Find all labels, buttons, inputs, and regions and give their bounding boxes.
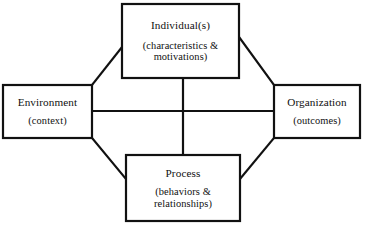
- connector-process-organization: [240, 138, 274, 179]
- node-box-individual[interactable]: [122, 4, 239, 78]
- diagram-canvas: Individual(s) (characteristics & motivat…: [0, 0, 365, 226]
- node-box-process[interactable]: [126, 155, 240, 221]
- node-box-organization[interactable]: [274, 85, 360, 138]
- node-box-environment[interactable]: [3, 85, 92, 138]
- connector-individual-organization: [239, 37, 274, 85]
- diagram-svg: [0, 0, 365, 226]
- connector-environment-process: [92, 138, 126, 179]
- node-box-group: [3, 4, 360, 221]
- connector-individual-environment: [92, 47, 122, 85]
